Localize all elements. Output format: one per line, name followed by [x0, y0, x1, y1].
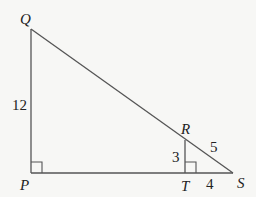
segment-QS [31, 29, 233, 173]
length-label-RT: 3 [172, 150, 180, 165]
diagram-lines [0, 0, 256, 197]
triangle-diagram: Q P S T R 12 3 5 4 [0, 0, 256, 197]
vertex-label-P: P [20, 178, 29, 193]
vertex-label-R: R [181, 122, 190, 137]
length-label-TS: 4 [206, 177, 214, 192]
vertex-label-S: S [237, 176, 245, 191]
right-angle-mark-T [185, 162, 196, 173]
vertex-label-Q: Q [20, 12, 31, 27]
length-label-RS: 5 [210, 140, 218, 155]
right-angle-mark-P [31, 162, 42, 173]
length-label-PQ: 12 [12, 98, 27, 113]
vertex-label-T: T [181, 179, 189, 194]
